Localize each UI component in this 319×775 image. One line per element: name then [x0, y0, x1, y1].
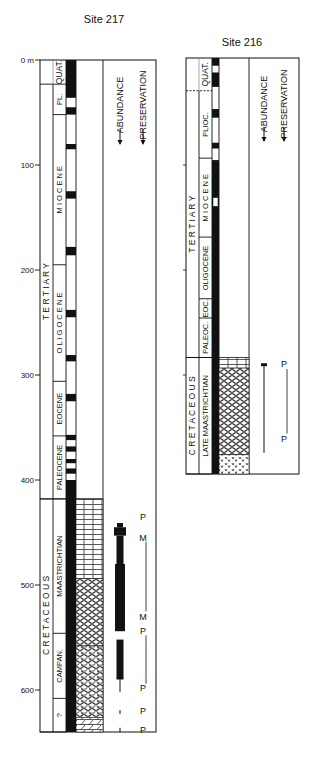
depth-tick-label: 600 — [21, 686, 35, 695]
abundance-bar — [261, 363, 267, 366]
abundance-bar — [264, 366, 265, 453]
abundance-bar — [120, 680, 121, 693]
era-label: C R E T A C E O U S — [188, 376, 198, 455]
epoch-label: PLIOC. — [201, 112, 210, 137]
lithology-chalk-brick — [76, 499, 103, 579]
preservation-label: P — [281, 359, 287, 369]
depth-tick-label: 0 m — [21, 56, 35, 65]
abundance-bar — [117, 640, 124, 680]
stratigraphic-figure: Site 217 Site 216 QUAT.T E R T I A R YC … — [0, 0, 319, 775]
core-recovery — [212, 58, 219, 66]
depth-tick-label: 100 — [21, 161, 35, 170]
core-recovery — [66, 191, 76, 198]
lithology-oval-ooze — [219, 368, 249, 455]
core-recovery — [212, 160, 219, 474]
era-label: QUAT. — [201, 62, 211, 86]
preservation-label: P — [140, 706, 146, 716]
preservation-label: P — [140, 626, 146, 636]
abundance-header: ABUNDANCE — [259, 76, 269, 133]
lithology-volcanic-v — [219, 455, 249, 474]
epoch-label: CAMPAN. — [55, 649, 64, 683]
core-recovery — [66, 107, 76, 114]
lithology-chalk-brick — [219, 357, 249, 368]
core-recovery — [66, 394, 76, 401]
depth-tick-label: 400 — [21, 476, 35, 485]
core-recovery — [66, 468, 76, 473]
arrow-down-icon — [118, 140, 123, 145]
depth-tick-label: 200 — [21, 266, 35, 275]
site-216-column: QUAT.T E R T I A R YC R E T A C E O U SP… — [186, 58, 299, 474]
preservation-label: P — [140, 683, 146, 693]
core-recovery — [66, 446, 76, 451]
core-recovery — [212, 143, 219, 149]
core-recovery — [66, 435, 76, 440]
lithology-oval-ooze — [76, 579, 103, 646]
core-recovery — [66, 310, 76, 317]
abundance-bar — [117, 536, 124, 564]
preservation-label: M — [139, 612, 147, 622]
depth-tick-label: 500 — [21, 581, 35, 590]
epoch-label: PALEOCENE — [55, 445, 64, 490]
era-label: T E R T I A R Y — [188, 195, 198, 252]
epoch-label: PALEOC. — [201, 322, 210, 354]
arrow-down-icon — [262, 137, 267, 142]
site-216-title: Site 216 — [222, 36, 262, 48]
site-217-column: QUAT.T E R T I A R YC R E T A C E O U SP… — [40, 60, 156, 735]
epoch-label: M I O C E N E — [201, 174, 210, 222]
abundance-bar — [120, 710, 121, 714]
core-recovery — [66, 60, 76, 98]
core-recovery — [212, 109, 219, 118]
abundance-bar — [117, 523, 123, 527]
abundance-bar — [114, 527, 126, 535]
core-recovery — [66, 247, 76, 255]
site-217-title: Site 217 — [84, 13, 124, 25]
preservation-label: P — [140, 725, 146, 735]
preservation-label: P — [281, 434, 287, 444]
abundance-header: ABUNDANCE — [115, 77, 125, 134]
depth-tick-label: 300 — [21, 371, 35, 380]
core-recovery — [66, 144, 76, 149]
epoch-label: M I O C E N E — [55, 166, 64, 214]
epoch-label: EOC. — [201, 299, 210, 317]
preservation-label: P — [140, 512, 146, 522]
lithology-oval-chert — [76, 646, 103, 717]
epoch-label: OLIGOCENE — [201, 246, 210, 291]
preservation-label: M — [139, 533, 147, 543]
epoch-label: MAASTRICHTIAN — [55, 535, 64, 596]
core-recovery — [66, 459, 76, 463]
epoch-label: LATE MAASTRICHTIAN — [201, 375, 210, 457]
epoch-label: PL. — [55, 94, 64, 105]
core-recovery — [66, 355, 76, 361]
core-recovery — [212, 72, 219, 86]
core-recovery — [66, 480, 76, 732]
abundance-bar — [120, 728, 121, 732]
abundance-bar — [115, 564, 125, 631]
preservation-header: PRESERVATION — [138, 70, 148, 139]
epoch-label: O L I G O C E N E — [55, 293, 64, 354]
arrow-down-icon — [141, 140, 146, 145]
era-label: QUAT. — [55, 60, 65, 84]
era-label: C R E T A C E O U S — [42, 576, 52, 655]
epoch-label: EOCENE — [55, 393, 64, 425]
lithology-limestone-diagonal — [76, 717, 103, 732]
epoch-label: ? — [55, 713, 64, 717]
era-label: T E R T I A R Y — [42, 263, 52, 320]
